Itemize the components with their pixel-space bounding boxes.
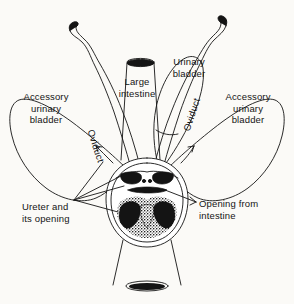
ureter-papilla-right xyxy=(148,179,151,182)
figure-linework xyxy=(0,0,294,304)
intestinal-opening xyxy=(128,187,167,193)
figure-background xyxy=(0,0,294,304)
ureter-papilla-left xyxy=(142,179,145,182)
anatomical-figure: Accessory urinary bladder Accessory urin… xyxy=(0,0,294,304)
vent-opening xyxy=(129,283,165,290)
